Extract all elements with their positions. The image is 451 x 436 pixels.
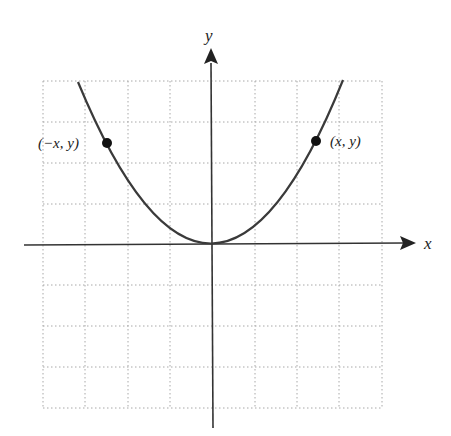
x-axis-label: x bbox=[423, 234, 432, 253]
y-axis-label: y bbox=[203, 26, 213, 45]
y-axis: y bbox=[203, 26, 218, 428]
symmetry-diagram: x y (−x, y) (x, y) bbox=[0, 0, 451, 436]
point-left-label: (−x, y) bbox=[38, 135, 79, 152]
point-left-marker bbox=[102, 138, 112, 148]
point-right-label: (x, y) bbox=[330, 133, 361, 150]
y-axis-arrow-icon bbox=[204, 48, 218, 64]
point-right-marker bbox=[311, 136, 321, 146]
